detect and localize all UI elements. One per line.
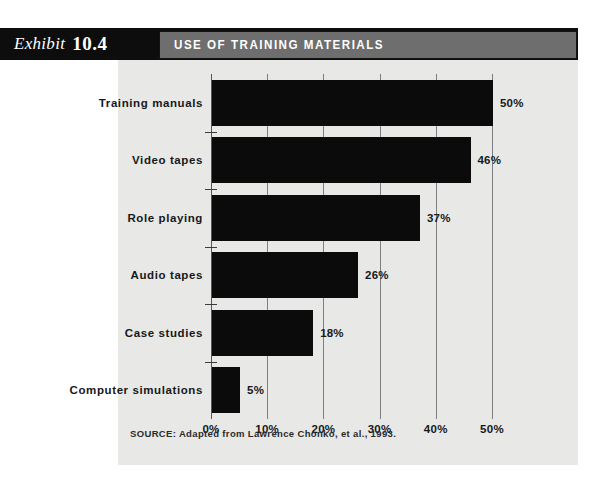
bar-value-label: 46% <box>478 154 502 166</box>
y-axis-tick <box>205 304 217 305</box>
exhibit-label: Exhibit 10.4 <box>14 28 164 60</box>
category-label: Case studies <box>125 327 203 339</box>
bar-value-label: 26% <box>365 269 389 281</box>
x-axis-tick-label: 40% <box>424 423 448 435</box>
bar <box>212 310 313 356</box>
bar-row: 37%Role playing <box>212 195 493 241</box>
bar <box>212 367 240 413</box>
bar <box>212 80 493 126</box>
exhibit-number: 10.4 <box>72 33 107 55</box>
x-axis-tick-label: 50% <box>480 423 504 435</box>
bar-value-label: 50% <box>500 97 524 109</box>
bar-row: 50%Training manuals <box>212 80 493 126</box>
category-label: Computer simulations <box>70 384 203 396</box>
page-title: USE OF TRAINING MATERIALS <box>174 38 384 52</box>
exhibit-word: Exhibit <box>14 34 65 54</box>
bar <box>212 137 471 183</box>
bar-row: 46%Video tapes <box>212 137 493 183</box>
category-label: Training manuals <box>99 97 203 109</box>
bar-value-label: 37% <box>427 212 451 224</box>
bar <box>212 195 420 241</box>
y-axis-tick <box>205 189 217 190</box>
plot-area: 0%10%20%30%40%50%50%Training manuals46%V… <box>211 74 492 419</box>
bar-value-label: 18% <box>320 327 344 339</box>
category-label: Audio tapes <box>131 269 203 281</box>
bar-row: 18%Case studies <box>212 310 493 356</box>
category-label: Video tapes <box>132 154 203 166</box>
bar <box>212 252 358 298</box>
title-bar: USE OF TRAINING MATERIALS <box>159 31 577 59</box>
y-axis-tick <box>205 362 217 363</box>
source-note: SOURCE: Adapted from Lawrence Chonko, et… <box>130 428 396 439</box>
bar-chart: 0%10%20%30%40%50%50%Training manuals46%V… <box>118 60 578 465</box>
exhibit-figure: Exhibit 10.4 USE OF TRAINING MATERIALS 0… <box>0 0 603 486</box>
category-label: Role playing <box>127 212 203 224</box>
bar-row: 5%Computer simulations <box>212 367 493 413</box>
y-axis-tick <box>205 247 217 248</box>
bar-value-label: 5% <box>247 384 264 396</box>
y-axis-tick <box>205 132 217 133</box>
bar-row: 26%Audio tapes <box>212 252 493 298</box>
